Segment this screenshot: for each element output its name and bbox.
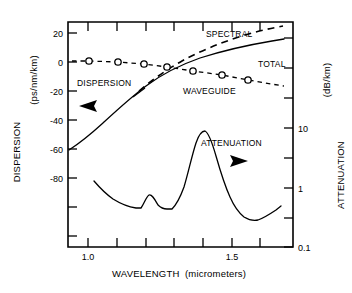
- plot-frame: [68, 22, 293, 247]
- right-tick-0p1: 0.1: [298, 243, 311, 253]
- right-axis-ticks: [284, 38, 293, 247]
- right-triangle-arrow-icon: [230, 155, 248, 167]
- waveguide-marker: [164, 64, 170, 70]
- x-axis-title-text: WAVELENGTH: [112, 268, 179, 279]
- spectral-label: SPECTRAL: [206, 29, 253, 39]
- right-axis-title: ATTENUATION: [335, 141, 346, 209]
- waveguide-marker: [219, 72, 225, 78]
- left-tick-neg40: -40: [50, 116, 63, 126]
- right-axis-ticklabels: 10 1 0.1: [298, 124, 311, 253]
- right-tick-1: 1: [298, 184, 303, 194]
- attenuation-label: ATTENUATION: [201, 138, 262, 148]
- x-axis-unit-text: (micrometers): [185, 268, 246, 279]
- left-tick-0: 0: [58, 58, 63, 68]
- right-tick-10: 10: [298, 124, 308, 134]
- left-axis-title: DISPERSION: [11, 122, 22, 183]
- left-tick-20: 20: [53, 29, 63, 39]
- right-axis-title-text: ATTENUATION: [335, 141, 346, 209]
- waveguide-marker: [245, 77, 251, 83]
- left-triangle-arrow-icon: [79, 100, 97, 112]
- right-axis-unit: (dB/km): [321, 63, 332, 98]
- waveguide-marker: [115, 59, 121, 65]
- waveguide-marker: [190, 68, 196, 74]
- x-axis-title: WAVELENGTH (micrometers): [112, 268, 246, 279]
- x-axis-ticks-bottom: [88, 238, 260, 247]
- right-axis-unit-text: (dB/km): [321, 63, 332, 98]
- figure-container: 20 0 -20 -40 -60 -80 10 1 0.1: [0, 0, 352, 293]
- waveguide-marker: [86, 58, 92, 64]
- left-axis-ticks: [68, 33, 77, 236]
- left-axis-title-text: DISPERSION: [11, 122, 22, 183]
- left-axis-ticklabels: 20 0 -20 -40 -60 -80: [50, 29, 63, 184]
- left-tick-neg60: -60: [50, 145, 63, 155]
- spectral-branch-tick: [133, 88, 145, 97]
- total-dispersion-curve: [69, 39, 284, 150]
- left-tick-neg20: -20: [50, 87, 63, 97]
- left-tick-neg80: -80: [50, 174, 63, 184]
- dispersion-label: DISPERSION: [77, 78, 131, 88]
- left-axis-unit-text: (ps/nm/km): [28, 55, 39, 105]
- waveguide-label: WAVEGUIDE: [183, 86, 236, 96]
- x-tick-1p0: 1.0: [82, 252, 95, 262]
- x-axis-ticklabels: 1.0 1.5: [82, 252, 239, 262]
- waveguide-marker: [141, 61, 147, 67]
- total-label: TOTAL: [258, 59, 286, 69]
- chart-svg: 20 0 -20 -40 -60 -80 10 1 0.1: [0, 0, 352, 293]
- x-tick-1p5: 1.5: [226, 252, 239, 262]
- left-axis-unit: (ps/nm/km): [28, 55, 39, 105]
